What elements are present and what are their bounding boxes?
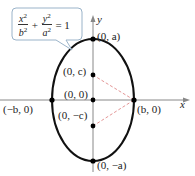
equals-one: = 1 xyxy=(55,19,69,31)
plus-sign: + xyxy=(32,19,38,31)
vertex-bottom-point xyxy=(90,158,95,163)
focus-upper-point xyxy=(91,73,96,78)
y-axis-label: y xyxy=(97,13,102,25)
label-upper-focus: (0, c) xyxy=(63,65,86,77)
label-top-vertex: (0, a) xyxy=(97,30,120,42)
label-left-vertex: (−b, 0) xyxy=(3,103,33,115)
label-right-vertex: (b, 0) xyxy=(137,103,161,115)
fraction-y-over-a: y2 a2 xyxy=(42,11,52,39)
y-axis-arrow-icon xyxy=(91,15,96,22)
label-center: (0, 0) xyxy=(64,88,88,100)
exponent: 2 xyxy=(23,12,27,20)
vertex-left-point xyxy=(49,97,54,102)
exponent: 2 xyxy=(47,12,51,20)
center-point xyxy=(91,98,96,103)
focal-line-upper xyxy=(93,75,134,100)
label-lower-focus: (0, −c) xyxy=(58,109,87,121)
vertex-right-point xyxy=(131,97,136,102)
label-bottom-vertex: (0, −a) xyxy=(97,159,126,171)
ellipse-equation: x2 b2 + y2 a2 = 1 xyxy=(14,8,80,38)
focus-lower-point xyxy=(91,124,96,129)
vertex-top-point xyxy=(90,36,95,41)
exponent: 2 xyxy=(47,26,51,34)
x-axis-label: x xyxy=(180,98,185,110)
focal-line-lower xyxy=(93,100,134,126)
fraction-x-over-b: x2 b2 xyxy=(18,11,28,39)
exponent: 2 xyxy=(24,26,28,34)
